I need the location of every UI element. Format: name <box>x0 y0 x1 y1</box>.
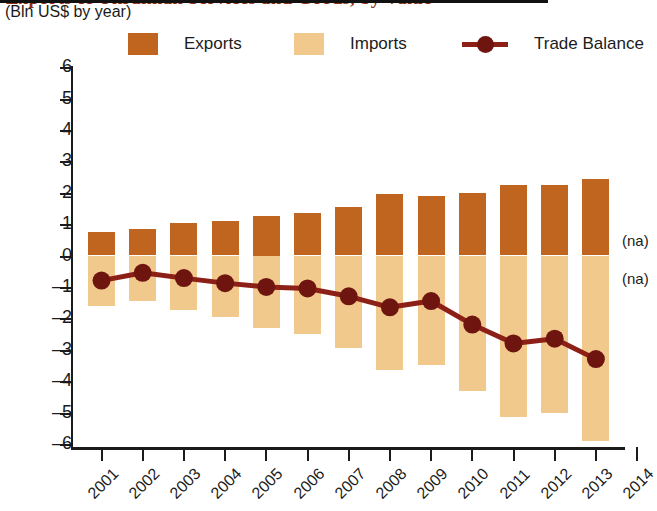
bar-import <box>170 256 197 311</box>
x-tick-label: 2004 <box>208 465 246 503</box>
bar-export <box>294 213 321 255</box>
x-tick-label: 2011 <box>496 466 533 503</box>
x-tick-mark <box>636 447 638 461</box>
bar-export <box>541 185 568 256</box>
x-tick-label: 2005 <box>249 465 287 503</box>
x-tick-label: 2002 <box>125 465 163 503</box>
x-tick-label: 2009 <box>414 465 452 503</box>
bar-import <box>335 256 362 349</box>
bar-export <box>376 194 403 255</box>
x-tick-mark <box>513 447 515 461</box>
bar-export <box>500 185 527 256</box>
x-tick-mark <box>101 447 103 461</box>
bar-import <box>459 256 486 391</box>
y-tick-label: 4 <box>38 119 72 140</box>
x-tick-mark <box>348 447 350 461</box>
x-tick-label: 2008 <box>372 465 410 503</box>
y-tick-label: 2 <box>38 182 72 203</box>
y-tick-label: –4 <box>38 370 72 391</box>
x-tick-mark <box>142 447 144 461</box>
y-tick-label: –1 <box>38 276 72 297</box>
x-tick-label: 2007 <box>331 465 369 503</box>
y-tick-label: –5 <box>38 402 72 423</box>
bar-export <box>418 196 445 256</box>
x-tick-label: 2010 <box>455 465 493 503</box>
bar-export <box>170 223 197 256</box>
bar-import <box>212 256 239 317</box>
x-tick-label: 2012 <box>537 465 575 503</box>
y-tick-label: 3 <box>38 150 72 171</box>
x-tick-mark <box>183 447 185 461</box>
zero-baseline <box>0 0 548 3</box>
bar-import <box>582 256 609 441</box>
x-tick-label: 2006 <box>290 465 328 503</box>
y-tick-label: 1 <box>38 213 72 234</box>
x-tick-label: 2003 <box>166 465 204 503</box>
y-tick-label: 0 <box>38 245 72 266</box>
bar-import <box>418 256 445 366</box>
x-tick-mark <box>389 447 391 461</box>
y-tick-label: –2 <box>38 307 72 328</box>
x-tick-mark <box>595 447 597 461</box>
x-tick-mark <box>554 447 556 461</box>
bar-export <box>129 229 156 256</box>
x-tick-mark <box>224 447 226 461</box>
bar-export <box>459 193 486 256</box>
bar-export <box>88 232 115 256</box>
x-tick-mark <box>265 447 267 461</box>
y-tick-label: –6 <box>38 433 72 454</box>
na-label-upper: (na) <box>622 232 649 249</box>
bar-import <box>500 256 527 418</box>
y-tick-label: 5 <box>38 88 72 109</box>
bar-import <box>88 256 115 306</box>
bar-export <box>582 179 609 256</box>
bar-import <box>253 256 280 328</box>
x-tick-mark <box>471 447 473 461</box>
x-tick-label: 2013 <box>578 465 616 503</box>
bar-import <box>129 256 156 302</box>
y-tick-label: 6 <box>38 56 72 77</box>
x-tick-mark <box>430 447 432 461</box>
x-tick-label: 2001 <box>84 465 122 503</box>
bar-import <box>541 256 568 413</box>
bar-export <box>335 207 362 256</box>
x-tick-mark <box>307 447 309 461</box>
bar-import <box>376 256 403 371</box>
bar-import <box>294 256 321 335</box>
y-tick-label: –3 <box>38 339 72 360</box>
bar-export <box>253 216 280 255</box>
bar-export <box>212 221 239 256</box>
na-label-lower: (na) <box>622 270 649 287</box>
x-tick-label: 2014 <box>620 465 657 503</box>
